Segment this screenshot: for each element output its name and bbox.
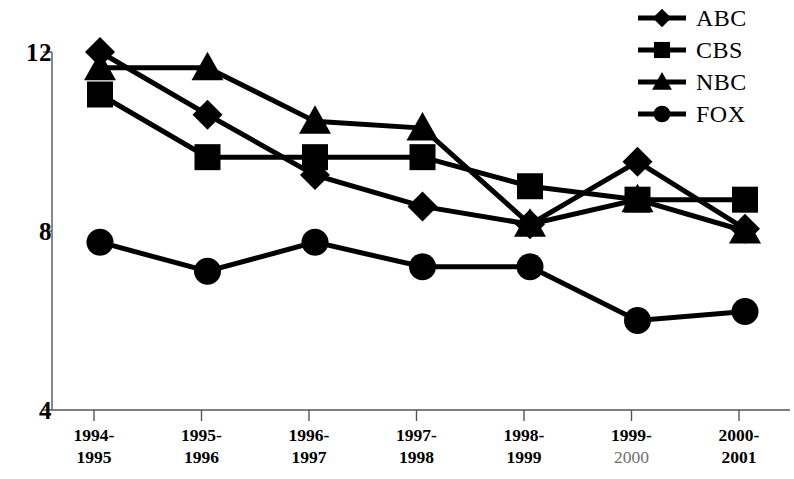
square-marker-icon bbox=[636, 37, 688, 63]
x-tick-line-1: 1995- bbox=[142, 424, 262, 446]
legend-label: CBS bbox=[688, 37, 743, 63]
x-axis-tick-label: 1996-1997 bbox=[249, 424, 369, 468]
x-axis-tick-label: 1994-1995 bbox=[34, 424, 154, 468]
x-axis-tick-label: 2000-2001 bbox=[679, 424, 794, 468]
x-tick-line-2: 2001 bbox=[679, 446, 794, 468]
x-tick-line-2: 1995 bbox=[34, 446, 154, 468]
x-axis-tick-label: 1998-1999 bbox=[464, 424, 584, 468]
x-axis-tick-label: 1999-2000 bbox=[572, 424, 692, 468]
x-tick-line-2: 1998 bbox=[357, 446, 477, 468]
x-tick-line-2: 2000 bbox=[572, 446, 692, 468]
x-tick-line-1: 1996- bbox=[249, 424, 369, 446]
x-tick-line-2: 1999 bbox=[464, 446, 584, 468]
x-tick-line-1: 1998- bbox=[464, 424, 584, 446]
diamond-marker-icon bbox=[636, 5, 688, 31]
legend-item-abc[interactable]: ABC bbox=[636, 2, 794, 34]
x-tick-line-2: 1996 bbox=[142, 446, 262, 468]
legend-item-fox[interactable]: FOX bbox=[636, 98, 794, 130]
chart-container: 12 8 4 1994-19951995-19961996-19971997-1… bbox=[0, 0, 794, 479]
triangle-marker-icon bbox=[636, 69, 688, 95]
x-axis-tick-label: 1995-1996 bbox=[142, 424, 262, 468]
legend-label: ABC bbox=[688, 5, 747, 31]
legend-item-cbs[interactable]: CBS bbox=[636, 34, 794, 66]
x-axis-tick-label: 1997-1998 bbox=[357, 424, 477, 468]
legend-label: FOX bbox=[688, 101, 746, 127]
circle-marker-icon bbox=[636, 101, 688, 127]
x-tick-line-1: 1999- bbox=[572, 424, 692, 446]
legend-label: NBC bbox=[688, 69, 747, 95]
x-tick-line-1: 1994- bbox=[34, 424, 154, 446]
chart-legend: ABCCBSNBCFOX bbox=[636, 2, 794, 130]
x-tick-line-2: 1997 bbox=[249, 446, 369, 468]
x-tick-line-1: 1997- bbox=[357, 424, 477, 446]
legend-item-nbc[interactable]: NBC bbox=[636, 66, 794, 98]
x-tick-line-1: 2000- bbox=[679, 424, 794, 446]
